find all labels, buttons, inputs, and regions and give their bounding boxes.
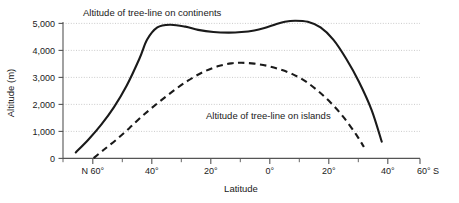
x-tick-label-s60: 60° S	[417, 166, 439, 176]
data-series-group	[76, 21, 382, 158]
x-tick-label-n20: 20°	[204, 166, 218, 176]
series-label-continents: Altitude of tree-line on continents	[83, 7, 222, 18]
x-tick-label-s20: 20°	[322, 166, 336, 176]
x-tick-label-n40: 40°	[145, 166, 159, 176]
y-tick-label-0: 0	[50, 154, 55, 164]
x-tick-label-s40: 40°	[381, 166, 395, 176]
tree-line-altitude-chart: 5,000 4,000 3,000 2,000 1,000 0 Altitude…	[0, 0, 459, 203]
x-axis-title: Latitude	[224, 183, 258, 194]
x-axis-group: N 60° 40° 20° 0° 20° 40° 60° S Latitude	[63, 158, 439, 194]
y-tick-label-1000: 1,000	[32, 127, 55, 137]
series-line-continents	[76, 21, 382, 153]
y-tick-label-5000: 5,000	[32, 19, 55, 29]
x-tick-label-0: 0°	[265, 166, 274, 176]
x-tick-label-n60: N 60°	[81, 166, 104, 176]
chart-plot-area: 5,000 4,000 3,000 2,000 1,000 0 Altitude…	[0, 0, 459, 203]
y-tick-label-2000: 2,000	[32, 100, 55, 110]
y-tick-label-3000: 3,000	[32, 73, 55, 83]
y-axis-ticks	[59, 23, 64, 158]
y-tick-label-4000: 4,000	[32, 46, 55, 56]
y-axis-group: 5,000 4,000 3,000 2,000 1,000 0 Altitude…	[5, 19, 63, 164]
series-label-islands: Altitude of tree-line on islands	[206, 110, 331, 121]
x-axis-major-ticks	[93, 158, 420, 164]
y-axis-title: Altitude (m)	[5, 69, 16, 118]
